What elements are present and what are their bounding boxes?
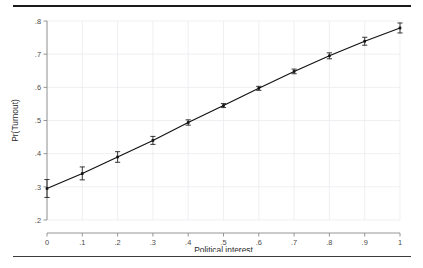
x-tick-label: .3 xyxy=(150,238,156,247)
data-point-marker xyxy=(46,187,49,190)
y-axis-title: Pr(Turnout) xyxy=(10,99,20,142)
x-tick-label: 1 xyxy=(398,238,402,247)
y-tick-label: .8 xyxy=(35,17,41,26)
x-tick-label: .4 xyxy=(185,238,191,247)
y-tick-label: .6 xyxy=(35,83,41,92)
x-tick-label: .8 xyxy=(326,238,332,247)
x-tick-label: 0 xyxy=(45,238,49,247)
y-tick-label: .4 xyxy=(35,149,41,158)
bottom-horizontal-rule xyxy=(13,256,411,257)
x-tick-label: .1 xyxy=(79,238,85,247)
y-tick-label: .7 xyxy=(35,50,41,59)
figure-container: .2.3.4.5.6.7.8 0.1.2.3.4.5.6.7.8.91 Pr(T… xyxy=(0,0,423,268)
plot-area-wrapper: .2.3.4.5.6.7.8 0.1.2.3.4.5.6.7.8.91 Pr(T… xyxy=(0,12,423,252)
top-horizontal-rule xyxy=(13,5,411,7)
data-point-marker xyxy=(81,172,84,175)
y-axis-ticks-group: .2.3.4.5.6.7.8 xyxy=(35,17,47,225)
line-chart: .2.3.4.5.6.7.8 0.1.2.3.4.5.6.7.8.91 Pr(T… xyxy=(0,12,423,252)
data-point-marker xyxy=(293,70,296,73)
x-axis-title: Political interest xyxy=(194,245,253,252)
data-point-marker xyxy=(152,139,155,142)
data-point-marker xyxy=(116,156,119,159)
data-point-marker xyxy=(363,40,366,43)
data-point-marker xyxy=(258,87,261,90)
x-tick-label: .2 xyxy=(115,238,121,247)
x-tick-label: .6 xyxy=(256,238,262,247)
y-tick-label: .2 xyxy=(35,216,41,225)
data-point-marker xyxy=(222,104,225,107)
data-point-marker xyxy=(328,55,331,58)
data-point-marker xyxy=(187,121,190,124)
x-tick-label: .9 xyxy=(362,238,368,247)
y-tick-label: .3 xyxy=(35,183,41,192)
data-point-marker xyxy=(399,27,402,30)
y-tick-label: .5 xyxy=(35,116,41,125)
gridlines-group xyxy=(47,21,400,220)
x-tick-label: .7 xyxy=(291,238,297,247)
